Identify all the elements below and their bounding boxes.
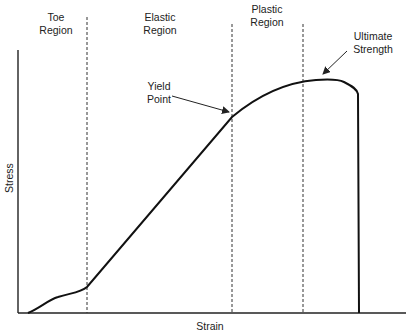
- ultimate-strength-label: Ultimate Strength: [346, 30, 400, 56]
- y-axis-label: Stress: [3, 163, 15, 193]
- ultimate-strength-arrow: [323, 51, 347, 74]
- yield-point-label: Yield Point: [143, 80, 175, 106]
- yield-point-arrow: [172, 96, 229, 112]
- x-axis-label: Strain: [190, 320, 230, 333]
- stress-strain-curve: [28, 79, 359, 313]
- toe-region-label: Toe Region: [36, 11, 76, 37]
- plastic-region-label: Plastic Region: [244, 3, 290, 29]
- elastic-region-label: Elastic Region: [137, 11, 183, 37]
